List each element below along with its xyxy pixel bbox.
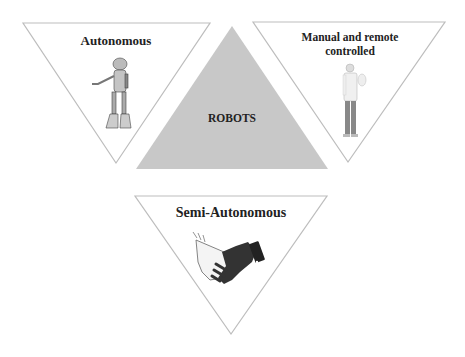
manual-label: Manual and remote controlled [290,30,410,58]
manual-label-line1: Manual and remote [290,30,410,44]
semi-autonomous-label: Semi-Autonomous [166,205,296,221]
robots-center-label: ROBOTS [182,112,282,124]
manual-label-line2: controlled [290,44,410,58]
autonomous-label: Autonomous [66,33,166,49]
